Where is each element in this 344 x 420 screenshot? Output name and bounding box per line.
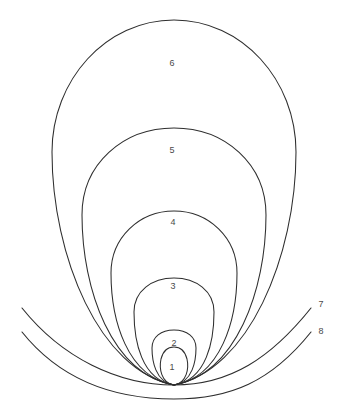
curve-label-6: 6 [169,58,174,68]
curve-label-8: 8 [318,326,323,336]
curve-label-2: 2 [171,338,176,348]
curve-label-1: 1 [169,362,174,372]
figure-container: 1 2 3 4 5 6 7 8 [0,0,344,420]
curve-label-5: 5 [169,145,174,155]
curve-label-3: 3 [170,281,175,291]
closed-curve-group [52,20,296,385]
closed-curve-4 [111,211,237,385]
curve-label-7: 7 [318,299,323,309]
curve-label-group: 1 2 3 4 5 6 7 8 [169,58,323,372]
open-curve-8 [22,332,311,399]
nested-curves-diagram: 1 2 3 4 5 6 7 8 [0,0,344,420]
curve-label-4: 4 [170,217,175,227]
open-curve-group [22,308,311,399]
